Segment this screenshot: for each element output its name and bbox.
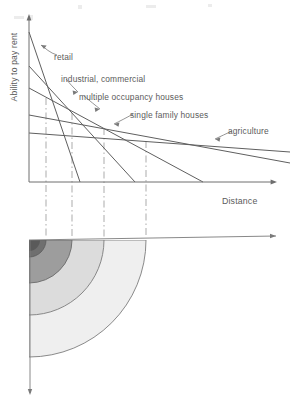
curve-single — [29, 115, 290, 163]
curve-label-retail: retail — [54, 52, 73, 62]
zone-map-x-axis — [29, 236, 276, 240]
y-axis-label: Ability to pay rent — [9, 13, 19, 121]
x-axis-label: Distance — [222, 196, 257, 206]
curve-label-multiple: multiple occupancy houses — [79, 92, 183, 102]
zone-map-y-arrowhead — [28, 389, 32, 395]
curve-label-agriculture: agriculture — [228, 126, 269, 136]
chart-x-arrowhead — [271, 180, 277, 185]
chart-y-arrowhead — [27, 14, 32, 20]
land-use-zone-map — [29, 240, 146, 357]
curve-label-industrial: industrial, commercial — [61, 74, 145, 84]
curve-label-single: single family houses — [130, 110, 208, 120]
zone-map-x-arrowhead — [270, 234, 276, 238]
